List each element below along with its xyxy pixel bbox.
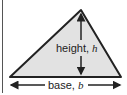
base-label: base, b — [46, 79, 85, 91]
height-variable: h — [92, 42, 98, 54]
height-label-text: height, — [56, 42, 92, 54]
height-label: height, h — [55, 42, 99, 54]
base-variable: b — [78, 79, 84, 91]
base-label-text: base, — [48, 79, 78, 91]
